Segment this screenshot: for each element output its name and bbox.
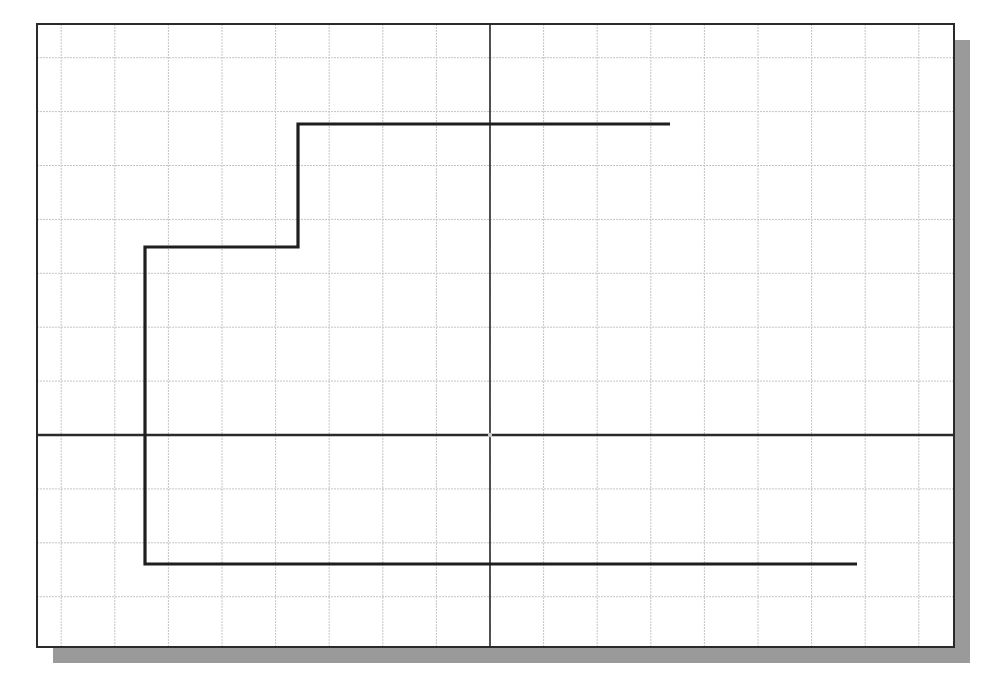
origin-marker-icon — [488, 433, 492, 437]
grid-drawing — [0, 0, 990, 679]
drawing-area[interactable] — [37, 24, 954, 647]
sketch-canvas — [0, 0, 990, 679]
